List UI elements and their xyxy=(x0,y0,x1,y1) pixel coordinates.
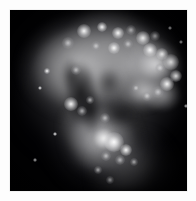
star-forming-knot xyxy=(123,39,134,50)
star-forming-knot xyxy=(101,151,111,161)
star-forming-knot xyxy=(155,63,166,74)
star-forming-knot xyxy=(106,176,114,184)
star-forming-knot xyxy=(77,24,90,37)
star-forming-knot xyxy=(130,158,139,167)
foreground-star xyxy=(184,104,187,108)
star-forming-knots-layer xyxy=(10,10,187,191)
foreground-star xyxy=(44,68,49,73)
dust-lane-layer xyxy=(10,10,187,191)
star-forming-knot xyxy=(143,43,158,58)
star-forming-knot xyxy=(132,84,141,93)
southern-tidal-tail-layer xyxy=(10,10,187,191)
foreground-star xyxy=(179,40,183,44)
star-forming-knot xyxy=(97,22,108,33)
foreground-stars-layer xyxy=(10,10,187,191)
foreground-star xyxy=(168,26,172,30)
star-forming-knot xyxy=(71,65,81,75)
star-forming-knot xyxy=(100,113,110,123)
star-forming-knot xyxy=(142,91,152,101)
star-forming-knot xyxy=(62,37,73,48)
foreground-star xyxy=(38,86,42,90)
northern-galaxy-body-layer xyxy=(10,10,187,191)
northern-galaxy-arc-layer xyxy=(10,10,187,191)
foreground-star xyxy=(33,158,36,161)
star-forming-knot xyxy=(163,54,179,70)
southern-galaxy-nucleus xyxy=(10,10,187,191)
star-forming-knot xyxy=(112,27,123,38)
page-canvas xyxy=(0,0,196,201)
star-forming-knot xyxy=(64,97,77,110)
star-forming-knot xyxy=(91,41,101,51)
star-forming-knot xyxy=(77,106,88,117)
sky-vignette-layer xyxy=(10,10,187,191)
star-forming-knot xyxy=(94,166,103,175)
faint-halo-layer xyxy=(10,10,187,191)
star-forming-knot xyxy=(156,48,167,59)
star-forming-knot xyxy=(104,132,124,152)
star-forming-knot xyxy=(120,144,132,156)
star-forming-knot xyxy=(170,70,182,82)
star-forming-knot xyxy=(136,31,150,45)
star-forming-knot xyxy=(86,96,95,105)
star-forming-knot xyxy=(150,31,161,42)
foreground-star xyxy=(53,132,57,136)
star-forming-knot xyxy=(126,25,136,35)
star-forming-knot xyxy=(115,155,126,166)
star-forming-knot xyxy=(152,86,163,97)
star-forming-knot xyxy=(108,42,120,54)
star-forming-knot xyxy=(160,77,173,90)
southern-galaxy-body-layer xyxy=(10,10,187,191)
colliding-galaxies-image xyxy=(10,10,187,191)
